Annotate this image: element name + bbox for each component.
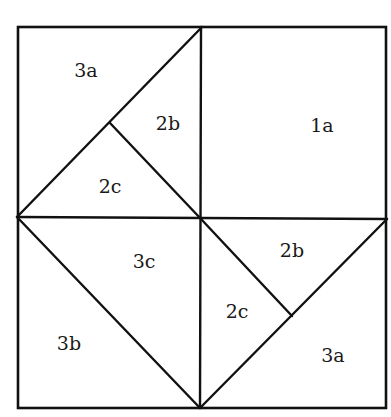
label-top-left-2c: 2c — [99, 175, 122, 197]
label-bottom-right-3a: 3a — [321, 344, 344, 366]
label-bottom-left-3b: 3b — [57, 332, 81, 354]
quilt-block-diagram: 3a 2b 2c 1a 3c 3b 2b 2c 3a — [0, 0, 391, 417]
label-top-right-1a: 1a — [310, 114, 333, 136]
label-bottom-right-2b: 2b — [280, 239, 304, 261]
label-bottom-left-3c: 3c — [133, 250, 156, 272]
label-top-left-2b: 2b — [156, 112, 180, 134]
label-bottom-right-2c: 2c — [226, 300, 249, 322]
label-top-left-3a: 3a — [74, 59, 97, 81]
